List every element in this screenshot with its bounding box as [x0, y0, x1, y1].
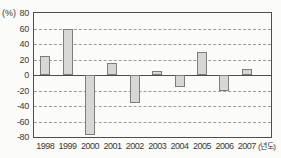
y-tick-label-80: 80 [1, 8, 29, 18]
bar-2004 [175, 75, 185, 87]
bar-2001 [107, 63, 117, 75]
x-tick-label-2007: 2007 [233, 141, 261, 151]
bar-2005 [197, 52, 207, 75]
y-tick-label-40: 40 [1, 39, 29, 49]
plot-area [33, 12, 272, 138]
gridline--40 [34, 106, 271, 107]
zero-axis-line [34, 75, 271, 76]
bar-1999 [63, 29, 73, 75]
bar-chart-figure: (%) 806040200-20-40-60-80 19981999200020… [0, 0, 281, 158]
bar-2000 [85, 75, 95, 135]
y-tick-label--20: -20 [1, 86, 29, 96]
y-tick-label--60: -60 [1, 117, 29, 127]
gridline--20 [34, 91, 271, 92]
bar-1998 [40, 56, 50, 75]
y-tick-label-60: 60 [1, 24, 29, 34]
gridline--60 [34, 122, 271, 123]
y-tick-label--40: -40 [1, 101, 29, 111]
bar-2002 [130, 75, 140, 103]
y-tick-label-20: 20 [1, 55, 29, 65]
bar-2003 [152, 71, 162, 75]
x-axis-unit-label: (년도) [258, 142, 275, 152]
bar-2007 [242, 69, 252, 75]
y-tick-label-0: 0 [1, 70, 29, 80]
bar-2006 [219, 75, 229, 91]
y-tick-label--80: -80 [1, 132, 29, 142]
